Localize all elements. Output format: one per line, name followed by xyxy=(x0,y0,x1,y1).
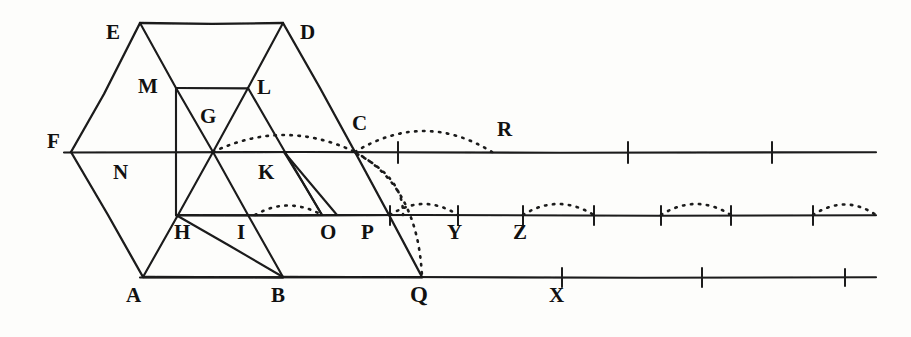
edge-E-D xyxy=(140,23,283,24)
point-label-D: D xyxy=(300,22,316,43)
edge-D-C xyxy=(283,23,355,152)
point-label-P: P xyxy=(361,222,374,243)
arc-Z-1 xyxy=(523,204,594,215)
point-label-C: C xyxy=(352,113,368,134)
point-label-G: G xyxy=(200,106,217,127)
point-label-O: O xyxy=(320,222,337,243)
arc-I-O xyxy=(255,206,322,216)
diagram-figure: E D M L G C R F N K H I O P Y Z A B Q X xyxy=(0,0,911,337)
arc-C-R xyxy=(355,131,492,152)
point-label-A: A xyxy=(126,285,142,306)
point-label-X: X xyxy=(549,285,565,306)
edge-H-B xyxy=(176,215,283,277)
edge-A-B xyxy=(143,277,283,278)
arc-P-Y xyxy=(390,204,458,215)
edge-K-P xyxy=(284,152,390,215)
top-rule xyxy=(64,152,876,153)
arc-Z-3 xyxy=(813,205,876,216)
point-label-B: B xyxy=(271,285,286,306)
arc-Z-2 xyxy=(661,204,731,215)
edge-F-A xyxy=(71,152,143,277)
point-label-N: N xyxy=(113,162,129,183)
point-label-Z: Z xyxy=(513,222,528,243)
point-label-E: E xyxy=(106,22,121,43)
point-label-Q: Q xyxy=(410,283,428,306)
point-label-I: I xyxy=(237,222,246,243)
point-label-F: F xyxy=(47,131,60,152)
point-label-Y: Y xyxy=(447,222,463,243)
edge-K-O xyxy=(284,152,322,215)
arc-C-descend-inner xyxy=(357,154,403,215)
point-label-R: R xyxy=(497,119,513,140)
point-label-H: H xyxy=(174,222,191,243)
point-label-L: L xyxy=(257,77,272,98)
point-label-M: M xyxy=(138,76,158,97)
point-label-K: K xyxy=(258,162,275,183)
